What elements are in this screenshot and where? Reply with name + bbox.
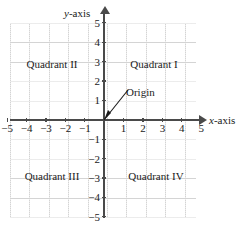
x-axis-label: x-axis bbox=[209, 114, 235, 126]
y-axis-tick bbox=[102, 139, 106, 140]
x-axis-tick-label: 5 bbox=[198, 123, 204, 134]
x-axis-tick bbox=[142, 118, 143, 122]
y-axis-tick bbox=[102, 61, 106, 62]
y-axis-label-suffix: -axis bbox=[69, 7, 90, 19]
x-axis-tick bbox=[181, 118, 182, 122]
y-axis-tick-label: −4 bbox=[84, 192, 100, 203]
y-axis-tick-label: −1 bbox=[84, 134, 100, 145]
x-axis-tick-label: −5 bbox=[1, 123, 13, 134]
x-axis-tick-label: 2 bbox=[140, 123, 146, 134]
quadrant-label-4: Quadrant IV bbox=[128, 170, 183, 182]
quadrant-label-3: Quadrant III bbox=[25, 170, 80, 182]
y-axis-tick-label: 3 bbox=[84, 56, 100, 67]
y-axis-tick bbox=[102, 197, 106, 198]
x-axis-tick-label: 4 bbox=[179, 123, 185, 134]
x-axis-tick bbox=[201, 118, 202, 122]
x-axis-tick bbox=[26, 118, 27, 122]
y-axis-tick bbox=[102, 42, 106, 43]
y-axis-label: y-axis bbox=[64, 7, 90, 19]
x-axis-tick-label: −3 bbox=[40, 123, 52, 134]
y-axis-tick-label: −5 bbox=[84, 211, 100, 222]
x-axis-tick-label: 3 bbox=[160, 123, 166, 134]
x-axis-tick bbox=[45, 118, 46, 122]
x-axis-tick bbox=[7, 118, 8, 122]
coordinate-plane-diagram: −5−4−3−2−11234554321−1−2−3−4−5 x-axis y-… bbox=[0, 0, 241, 228]
y-axis-tick bbox=[102, 216, 106, 217]
x-axis-label-suffix: -axis bbox=[214, 114, 235, 126]
y-axis-tick-label: −2 bbox=[84, 153, 100, 164]
y-axis-arrow-icon bbox=[100, 6, 110, 14]
origin-label: Origin bbox=[126, 86, 155, 98]
quadrant-label-2: Quadrant II bbox=[26, 58, 77, 70]
x-axis-tick bbox=[162, 118, 163, 122]
quadrant-label-1: Quadrant I bbox=[130, 58, 177, 70]
y-axis-tick-label: 4 bbox=[84, 37, 100, 48]
x-axis-tick bbox=[84, 118, 85, 122]
y-axis-tick bbox=[102, 177, 106, 178]
x-axis-tick-label: 1 bbox=[121, 123, 127, 134]
y-axis-tick-label: −3 bbox=[84, 173, 100, 184]
y-axis-tick bbox=[102, 158, 106, 159]
x-axis-tick bbox=[65, 118, 66, 122]
x-axis-tick-label: −4 bbox=[21, 123, 33, 134]
x-axis-tick-label: −2 bbox=[60, 123, 72, 134]
y-axis-tick bbox=[102, 22, 106, 23]
